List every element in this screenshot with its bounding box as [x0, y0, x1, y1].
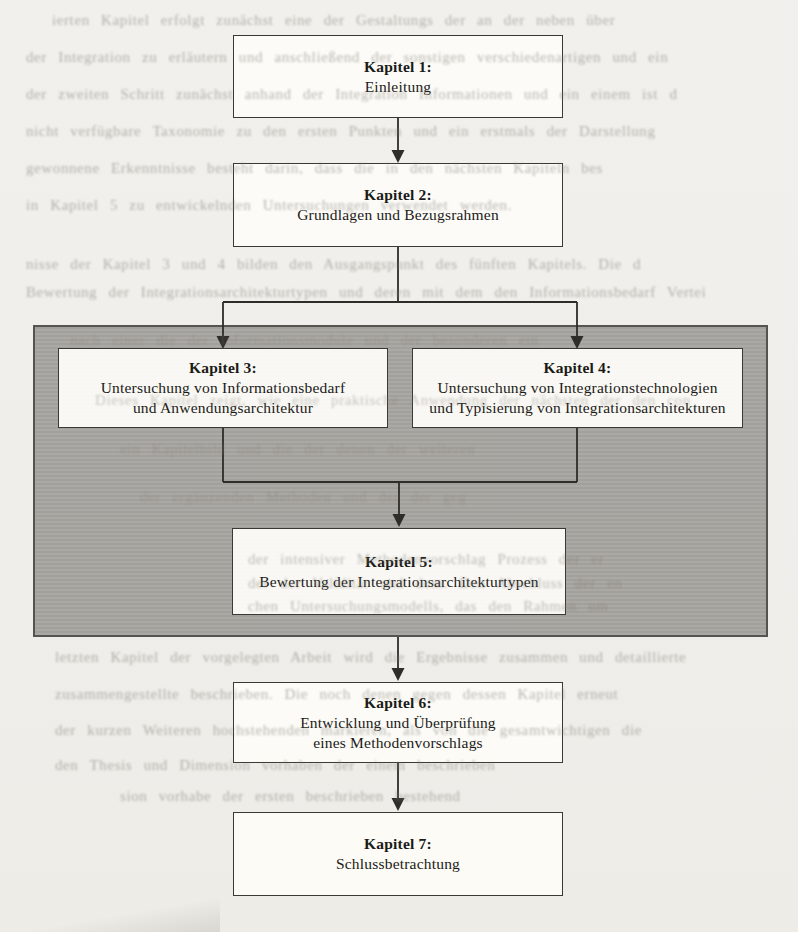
kapitel-4-title: Kapitel 4: [544, 358, 612, 378]
arrowhead-k5-icon [393, 514, 406, 527]
kapitel-4-box: Kapitel 4: Untersuchung von Integrations… [412, 348, 743, 428]
kapitel-3-label-line2: und Anwendungsarchitektur [133, 398, 313, 418]
kapitel-2-box: Kapitel 2: Grundlagen und Bezugsrahmen [233, 163, 563, 247]
kapitel-3-title: Kapitel 3: [189, 358, 257, 378]
arrowhead-k7-icon [392, 798, 405, 811]
arrowhead-k2-icon [392, 150, 405, 163]
connector-k2-branch [223, 247, 577, 336]
kapitel-2-label: Grundlagen und Bezugsrahmen [297, 205, 499, 225]
kapitel-5-box: Kapitel 5: Bewertung der Integrationsarc… [232, 528, 566, 615]
kapitel-1-title: Kapitel 1: [364, 57, 432, 77]
kapitel-5-label: Bewertung der Integrationsarchitekturtyp… [259, 572, 539, 592]
kapitel-3-label-line1: Untersuchung von Informationsbedarf [101, 378, 346, 398]
kapitel-6-box: Kapitel 6: Entwicklung und Überprüfung e… [233, 682, 563, 763]
kapitel-6-label-line2: eines Methodenvorschlags [313, 733, 483, 753]
kapitel-7-box: Kapitel 7: Schlussbetrachtung [233, 812, 563, 896]
kapitel-7-label: Schlussbetrachtung [336, 854, 460, 874]
kapitel-1-label: Einleitung [365, 77, 432, 97]
kapitel-1-box: Kapitel 1: Einleitung [233, 35, 563, 118]
kapitel-7-title: Kapitel 7: [364, 834, 432, 854]
kapitel-6-title: Kapitel 6: [364, 693, 432, 713]
kapitel-4-label-line2: und Typisierung von Integrationsarchitek… [429, 398, 725, 418]
connector-k34-join [223, 428, 577, 514]
kapitel-6-label-line1: Entwicklung und Überprüfung [300, 713, 496, 733]
kapitel-4-label-line1: Untersuchung von Integrationstechnologie… [437, 378, 717, 398]
arrowhead-k6-icon [392, 668, 405, 681]
flow-connectors [0, 0, 798, 932]
kapitel-3-box: Kapitel 3: Untersuchung von Informations… [58, 348, 388, 428]
scanned-page: Kapitel 1: Einleitung Kapitel 2: Grundla… [0, 0, 798, 932]
kapitel-5-title: Kapitel 5: [365, 552, 433, 572]
kapitel-2-title: Kapitel 2: [364, 185, 432, 205]
